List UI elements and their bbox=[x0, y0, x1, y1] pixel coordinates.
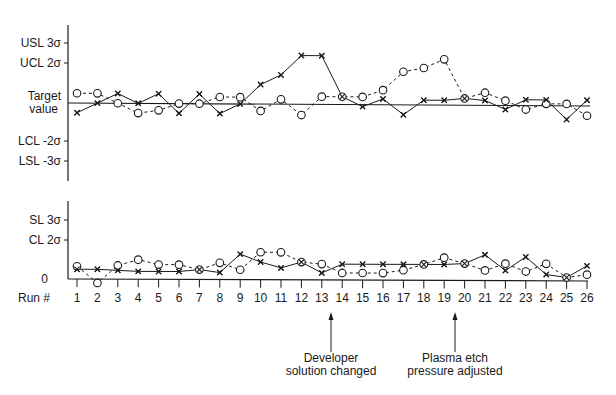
o-marker-icon bbox=[114, 99, 122, 107]
top-series-group bbox=[73, 53, 591, 122]
annotation-plasma-line2: pressure adjusted bbox=[407, 364, 502, 378]
top-chart: USL 3σ UCL 2σ Target value LCL -2σ LSL -… bbox=[18, 25, 591, 181]
run-tick-label: 14 bbox=[336, 291, 350, 305]
o-marker-icon bbox=[481, 267, 489, 275]
annotation-developer-line2: solution changed bbox=[286, 364, 377, 378]
run-tick-label: 5 bbox=[155, 291, 162, 305]
run-axis-ticks: 1234567891011121314151617181920212223242… bbox=[74, 279, 594, 305]
o-marker-icon bbox=[277, 249, 285, 257]
lsl-label: LSL -3σ bbox=[19, 154, 62, 168]
run-tick-label: 12 bbox=[295, 291, 309, 305]
o-marker-icon bbox=[134, 109, 142, 117]
bottom-x-axis bbox=[68, 279, 588, 281]
o-marker-icon bbox=[175, 261, 183, 269]
run-tick-label: 10 bbox=[254, 291, 268, 305]
bottom-chart: SL 3σ CL 2σ 0 12345678910111213141516171… bbox=[18, 201, 594, 305]
o-marker-icon bbox=[298, 111, 306, 119]
o-marker-icon bbox=[277, 96, 285, 104]
o-marker-icon bbox=[318, 260, 326, 268]
o-marker-icon bbox=[583, 112, 591, 120]
run-tick-label: 20 bbox=[458, 291, 472, 305]
run-tick-label: 13 bbox=[315, 291, 329, 305]
run-tick-label: 1 bbox=[74, 291, 81, 305]
ucl-label: UCL 2σ bbox=[20, 56, 62, 70]
run-tick-label: 4 bbox=[135, 291, 142, 305]
run-tick-label: 6 bbox=[176, 291, 183, 305]
arrowhead-icon bbox=[453, 312, 458, 320]
o-marker-icon bbox=[563, 100, 571, 108]
o-marker-icon bbox=[94, 90, 102, 98]
annotation-developer: Developer solution changed bbox=[286, 312, 377, 378]
zero-label: 0 bbox=[41, 272, 48, 286]
annotation-developer-line1: Developer bbox=[304, 351, 359, 365]
o-marker-icon bbox=[73, 89, 81, 97]
annotation-plasma-line1: Plasma etch bbox=[422, 351, 488, 365]
arrowhead-icon bbox=[329, 312, 334, 320]
o-marker-icon bbox=[318, 93, 326, 101]
run-tick-label: 7 bbox=[196, 291, 203, 305]
o-marker-icon bbox=[236, 266, 244, 274]
o-marker-icon bbox=[155, 261, 163, 269]
o-marker-icon bbox=[502, 260, 510, 268]
o-marker-icon bbox=[542, 260, 550, 268]
lcl-label: LCL -2σ bbox=[18, 134, 62, 148]
run-tick-label: 18 bbox=[417, 291, 431, 305]
run-tick-label: 19 bbox=[438, 291, 452, 305]
run-tick-label: 8 bbox=[216, 291, 223, 305]
o-marker-icon bbox=[522, 106, 530, 114]
run-tick-label: 16 bbox=[376, 291, 390, 305]
o-marker-icon bbox=[359, 269, 367, 277]
o-marker-icon bbox=[196, 100, 204, 108]
o-marker-icon bbox=[522, 268, 530, 276]
annotations: Developer solution changed Plasma etch p… bbox=[286, 312, 503, 378]
run-tick-label: 23 bbox=[519, 291, 533, 305]
o-marker-icon bbox=[216, 93, 224, 101]
run-tick-label: 22 bbox=[499, 291, 513, 305]
run-tick-label: 2 bbox=[94, 291, 101, 305]
o-marker-icon bbox=[542, 100, 550, 108]
annotation-plasma: Plasma etch pressure adjusted bbox=[407, 312, 502, 378]
o-marker-icon bbox=[257, 248, 265, 256]
run-tick-label: 11 bbox=[275, 291, 288, 305]
o-marker-icon bbox=[502, 97, 510, 105]
o-marker-icon bbox=[175, 100, 183, 108]
control-chart-figure: USL 3σ UCL 2σ Target value LCL -2σ LSL -… bbox=[0, 0, 616, 395]
o-marker-icon bbox=[400, 266, 408, 274]
o-marker-icon bbox=[359, 93, 367, 101]
o-marker-icon bbox=[338, 269, 346, 277]
o-marker-icon bbox=[155, 107, 163, 115]
usl-label: USL 3σ bbox=[21, 36, 62, 50]
o-marker-icon bbox=[94, 279, 102, 287]
o-marker-icon bbox=[134, 256, 142, 264]
o-marker-icon bbox=[440, 254, 448, 262]
o-marker-icon bbox=[379, 269, 387, 277]
target-label-line1: Target bbox=[28, 89, 62, 103]
run-tick-label: 21 bbox=[478, 291, 492, 305]
run-tick-label: 17 bbox=[397, 291, 411, 305]
cl-label: CL 2σ bbox=[29, 233, 62, 247]
run-tick-label: 15 bbox=[356, 291, 370, 305]
o-marker-icon bbox=[379, 86, 387, 94]
sl-label: SL 3σ bbox=[29, 213, 61, 227]
run-tick-label: 3 bbox=[114, 291, 121, 305]
run-tick-label: 24 bbox=[540, 291, 554, 305]
o-marker-icon bbox=[583, 271, 591, 279]
run-tick-label: 26 bbox=[580, 291, 594, 305]
o-marker-icon bbox=[216, 259, 224, 267]
o-marker-icon bbox=[481, 89, 489, 97]
run-axis-label: Run # bbox=[18, 291, 50, 305]
o-marker-icon bbox=[236, 93, 244, 101]
target-label-line2: value bbox=[29, 102, 58, 116]
o-marker-icon bbox=[257, 107, 265, 115]
run-tick-label: 25 bbox=[560, 291, 574, 305]
x-series-line bbox=[77, 56, 587, 120]
o-marker-icon bbox=[440, 56, 448, 64]
run-tick-label: 9 bbox=[237, 291, 244, 305]
o-marker-icon bbox=[400, 68, 408, 76]
x-series-line bbox=[77, 254, 587, 277]
o-marker-icon bbox=[420, 64, 428, 72]
